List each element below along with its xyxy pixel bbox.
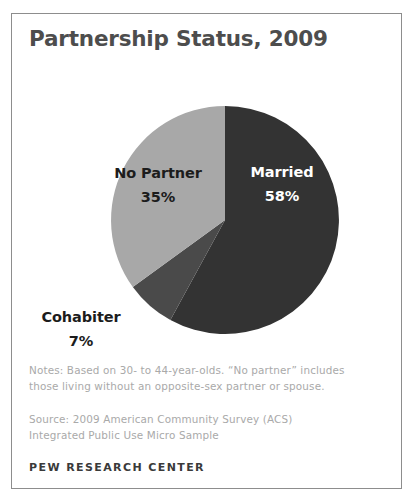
chart-source-line-2: Integrated Public Use Micro Sample: [29, 428, 389, 444]
chart-source-line-1: Source: 2009 American Community Survey (…: [29, 412, 389, 428]
chart-notes-line-1: Notes: Based on 30- to 44-year-olds. “No…: [29, 363, 389, 379]
chart-notes: Notes: Based on 30- to 44-year-olds. “No…: [29, 363, 389, 394]
pie-label-cohabiter: Cohabiter 7%: [25, 310, 137, 348]
pie-chart-svg: [12, 72, 401, 344]
page-title: Partnership Status, 2009: [29, 26, 328, 51]
pie-label-no-partner: No Partner 35%: [94, 166, 222, 204]
figure-frame: Partnership Status, 2009 Married 58% No …: [11, 13, 402, 489]
pie-label-cohabiter-name: Cohabiter: [25, 310, 137, 325]
chart-source: Source: 2009 American Community Survey (…: [29, 412, 389, 443]
pie-chart: Married 58% No Partner 35% Cohabiter 7%: [12, 72, 401, 344]
chart-notes-line-2: those living without an opposite-sex par…: [29, 379, 389, 395]
pie-label-married-value: 58%: [228, 189, 336, 204]
pie-label-married-name: Married: [228, 165, 336, 180]
pie-label-married: Married 58%: [228, 165, 336, 203]
pie-label-no-partner-name: No Partner: [94, 166, 222, 181]
footer-brand: PEW RESEARCH CENTER: [29, 461, 205, 474]
pie-label-no-partner-value: 35%: [94, 190, 222, 205]
pie-label-cohabiter-value: 7%: [25, 334, 137, 349]
